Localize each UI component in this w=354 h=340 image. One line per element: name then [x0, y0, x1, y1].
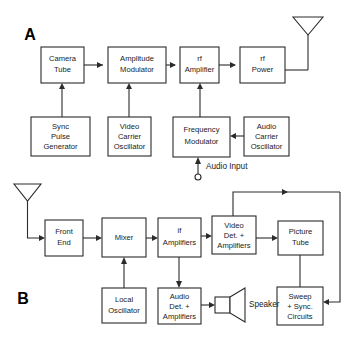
- block-frequency-modulator-line-0: Frequency: [184, 125, 220, 134]
- block-sweep-sync-circuits-line-0: Sweep: [288, 292, 311, 301]
- wire-audio-input-to-frequency-modulator: [195, 157, 201, 180]
- block-camera-tube-line-0: Camera: [49, 54, 77, 63]
- block-picture-tube-line-0: Picture: [289, 227, 313, 236]
- block-video-det-amplifiers-line-1: Det. +: [224, 231, 245, 240]
- block-amplitude-modulator: Amplitude Modulator: [108, 47, 166, 83]
- panel-label-a: A: [24, 26, 36, 43]
- block-audio-det-amplifiers-line-0: Audio: [170, 292, 189, 301]
- block-audio-det-amplifiers-line-2: Amplifiers: [163, 312, 197, 321]
- block-video-carrier-oscillator-line-0: Video: [120, 122, 139, 131]
- label-audio-input: Audio Input: [206, 162, 248, 171]
- block-amplitude-modulator-line-1: Modulator: [120, 65, 154, 74]
- block-sweep-sync-circuits: Sweep + Sync. Circuits: [277, 287, 323, 325]
- block-diagram-figure: A Camera Tube Amplitude Modulator rf Amp…: [0, 0, 354, 340]
- block-picture-tube: Picture Tube: [278, 221, 323, 255]
- block-video-carrier-oscillator-line-2: Oscillator: [114, 142, 146, 151]
- block-rf-power-line-1: Power: [252, 65, 274, 74]
- block-local-oscillator-line-1: Oscillator: [108, 306, 140, 315]
- block-video-det-amplifiers-line-2: Amplifiers: [217, 241, 251, 250]
- block-if-amplifiers: if Amplifiers: [158, 218, 201, 257]
- block-front-end: Front End: [45, 220, 83, 256]
- block-camera-tube: Camera Tube: [41, 47, 84, 83]
- wire-camera-to-amplitude-modulator: [84, 62, 103, 68]
- block-picture-tube-line-1: Tube: [292, 238, 309, 247]
- wire-audio-carrier-to-frequency-modulator: [230, 133, 244, 139]
- block-sync-pulse-generator-line-0: Sync: [52, 122, 69, 131]
- wire-amplitude-modulator-to-rf-amplifier: [166, 62, 176, 68]
- block-sync-pulse-generator-line-1: Pulse: [51, 132, 70, 141]
- speaker-icon: [215, 288, 245, 322]
- block-sync-pulse-generator-line-2: Generator: [43, 142, 78, 151]
- block-audio-carrier-oscillator-line-1: Carrier: [255, 132, 279, 141]
- wire-audio-det-to-speaker: [201, 302, 215, 308]
- wire-video-det-to-picture-tube: [256, 235, 278, 241]
- block-video-det-amplifiers: Video Det. + Amplifiers: [212, 216, 256, 254]
- wire-mixer-to-if-amplifiers: [146, 235, 158, 241]
- block-if-amplifiers-line-1: Amplifiers: [163, 238, 197, 247]
- block-sweep-sync-circuits-line-1: + Sync.: [287, 302, 313, 311]
- wire-rf-amplifier-to-rf-power: [219, 62, 236, 68]
- block-camera-tube-line-1: Tube: [54, 65, 71, 74]
- block-video-carrier-oscillator: Video Carrier Oscillator: [108, 117, 151, 156]
- block-mixer-line-0: Mixer: [115, 233, 134, 242]
- block-frequency-modulator-line-1: Modulator: [185, 137, 219, 146]
- block-video-carrier-oscillator-line-1: Carrier: [118, 132, 142, 141]
- wire-sync-pulse-to-camera-tube: [59, 83, 65, 117]
- wire-frequency-modulator-to-rf-amplifier: [197, 83, 203, 117]
- block-sweep-sync-circuits-line-2: Circuits: [287, 312, 313, 321]
- block-local-oscillator-line-0: Local: [115, 295, 133, 304]
- block-audio-det-amplifiers-line-1: Det. +: [169, 302, 190, 311]
- block-video-det-amplifiers-line-0: Video: [224, 221, 243, 230]
- wire-video-carrier-to-amplitude-modulator: [126, 83, 132, 117]
- block-rf-amplifier-line-1: Amplifier: [185, 65, 215, 74]
- block-rf-power: rf Power: [240, 47, 285, 83]
- block-local-oscillator: Local Oscillator: [102, 288, 146, 323]
- wire-if-amplifiers-to-audio-det: [176, 257, 182, 288]
- block-front-end-line-0: Front: [55, 227, 74, 236]
- block-audio-det-amplifiers: Audio Det. + Amplifiers: [158, 288, 201, 324]
- block-amplitude-modulator-line-0: Amplitude: [120, 54, 154, 63]
- wire-front-end-to-mixer: [83, 235, 102, 241]
- block-sync-pulse-generator: Sync Pulse Generator: [31, 117, 90, 156]
- block-audio-carrier-oscillator: Audio Carrier Oscillator: [244, 117, 289, 156]
- block-audio-carrier-oscillator-line-0: Audio: [257, 122, 276, 131]
- transmit-antenna-icon: [293, 17, 323, 70]
- wire-local-oscillator-to-mixer: [121, 257, 127, 288]
- receive-antenna-icon: [14, 184, 45, 241]
- diagram-canvas: A Camera Tube Amplitude Modulator rf Amp…: [0, 0, 354, 340]
- wire-if-amplifiers-to-video-det: [201, 233, 212, 239]
- block-audio-carrier-oscillator-line-2: Oscillator: [251, 142, 283, 151]
- panel-label-b: B: [17, 290, 29, 307]
- block-frequency-modulator: Frequency Modulator: [173, 117, 230, 157]
- block-front-end-line-1: End: [57, 238, 71, 247]
- block-rf-amplifier: rf Amplifier: [180, 47, 219, 83]
- label-speaker: Speaker: [249, 300, 280, 309]
- block-mixer: Mixer: [102, 218, 146, 257]
